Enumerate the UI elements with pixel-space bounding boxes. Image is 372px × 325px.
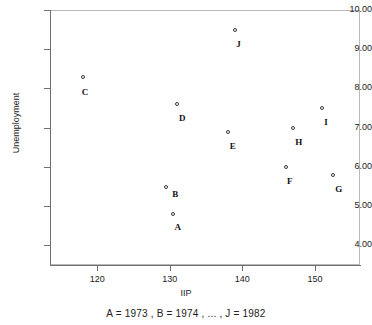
y-tick-label: 4.00 xyxy=(330,240,372,249)
data-point-c[interactable] xyxy=(81,75,85,79)
y-tick-label: 8.00 xyxy=(330,83,372,92)
y-tick-mark xyxy=(44,167,50,168)
data-point-label-b: B xyxy=(172,190,178,199)
y-axis-line xyxy=(50,10,51,266)
data-point-label-c: C xyxy=(82,88,89,97)
data-point-label-h: H xyxy=(295,138,302,147)
y-tick-label: 5.00 xyxy=(330,201,372,210)
y-tick-label: 10.00 xyxy=(330,5,372,14)
x-tick-mark xyxy=(170,265,171,271)
data-point-j[interactable] xyxy=(233,28,237,32)
data-point-b[interactable] xyxy=(164,185,168,189)
y-tick-label: 7.00 xyxy=(330,123,372,132)
y-tick-mark xyxy=(44,49,50,50)
data-point-label-i: I xyxy=(324,118,328,127)
y-tick-mark xyxy=(44,88,50,89)
y-tick-mark xyxy=(44,10,50,11)
data-point-h[interactable] xyxy=(291,126,295,130)
x-axis-title: IIP xyxy=(0,288,372,298)
y-axis-title: Unemployment xyxy=(11,63,21,183)
y-tick-label: 6.00 xyxy=(330,162,372,171)
x-tick-mark xyxy=(315,265,316,271)
figure-caption: A = 1973 , B = 1974 , ... , J = 1982 xyxy=(0,308,372,319)
x-tick-mark xyxy=(97,265,98,271)
x-tick-label: 150 xyxy=(295,274,335,284)
y-tick-mark xyxy=(44,245,50,246)
data-point-g[interactable] xyxy=(331,173,335,177)
data-point-label-a: A xyxy=(174,223,181,232)
data-point-label-g: G xyxy=(335,185,342,194)
x-tick-label: 140 xyxy=(222,274,262,284)
x-tick-mark xyxy=(242,265,243,271)
plot-area xyxy=(50,10,360,265)
data-point-label-f: F xyxy=(287,177,293,186)
data-point-e[interactable] xyxy=(226,130,230,134)
y-tick-mark xyxy=(44,128,50,129)
data-point-label-j: J xyxy=(236,40,241,49)
x-tick-label: 130 xyxy=(150,274,190,284)
y-tick-mark xyxy=(44,206,50,207)
data-point-label-d: D xyxy=(179,114,186,123)
y-tick-label: 9.00 xyxy=(330,44,372,53)
data-point-label-e: E xyxy=(230,142,236,151)
scatter-plot-figure: 4.005.006.007.008.009.0010.00 1201301401… xyxy=(0,0,372,325)
x-tick-label: 120 xyxy=(77,274,117,284)
data-point-f[interactable] xyxy=(284,165,288,169)
